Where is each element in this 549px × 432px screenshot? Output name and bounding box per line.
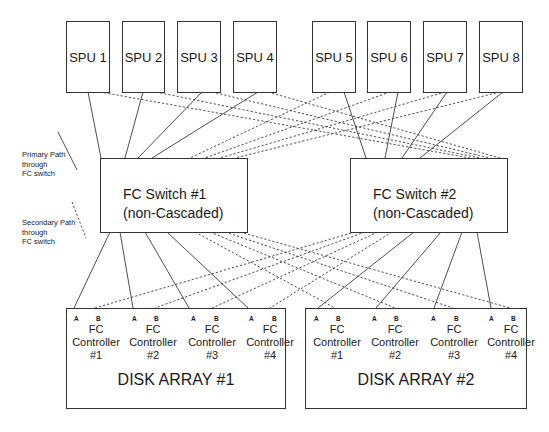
spu-1: SPU 1 — [66, 21, 110, 93]
fc-controller-3: AB FC Controller #3 — [184, 309, 240, 362]
port-a: A — [314, 312, 319, 325]
disk-array-1: AB FC Controller #1 AB FC Controller #2 … — [66, 308, 286, 409]
controller-line3: #1 — [309, 349, 365, 362]
fc-switch-2: FC Switch #2 (non-Cascaded) — [350, 158, 508, 233]
spu-3: SPU 3 — [177, 21, 221, 93]
port-a: A — [431, 312, 436, 325]
legend-primary-path: Primary Path through FC switch — [22, 150, 65, 179]
controller-line2: Controller — [426, 336, 482, 349]
controller-line3: #4 — [483, 349, 539, 362]
legend-secondary-line3: FC switch — [22, 237, 75, 247]
controller-line2: Controller — [125, 336, 181, 349]
spu-label: SPU 6 — [370, 50, 408, 65]
fc-switch-1: FC Switch #1 (non-Cascaded) — [100, 158, 248, 233]
switch-title: FC Switch #2 — [373, 185, 507, 204]
port-a: A — [132, 312, 137, 325]
legend-primary-line2: through — [22, 160, 65, 170]
controller-line3: #3 — [426, 349, 482, 362]
spu-7: SPU 7 — [423, 21, 467, 93]
spu-5: SPU 5 — [312, 21, 356, 93]
port-a: A — [372, 312, 377, 325]
fc-controller-4: AB FC Controller #4 — [242, 309, 298, 362]
controller-line2: Controller — [367, 336, 423, 349]
port-b: B — [96, 312, 101, 325]
fc-controller-3: AB FC Controller #3 — [426, 309, 482, 362]
disk-array-title: DISK ARRAY #2 — [306, 371, 526, 389]
switch-title: FC Switch #1 — [123, 185, 247, 204]
spu-label: SPU 1 — [69, 50, 107, 65]
spu-2: SPU 2 — [122, 21, 165, 93]
spu-label: SPU 3 — [180, 50, 218, 65]
port-a: A — [489, 312, 494, 325]
controller-line2: Controller — [242, 336, 298, 349]
controller-line3: #1 — [68, 349, 124, 362]
legend-primary-line3: FC switch — [22, 169, 65, 179]
legend-primary-line1: Primary Path — [22, 150, 65, 160]
spu-4: SPU 4 — [233, 21, 277, 93]
fc-controller-1: AB FC Controller #1 — [68, 309, 124, 362]
controller-line2: Controller — [309, 336, 365, 349]
fc-controller-4: AB FC Controller #4 — [483, 309, 539, 362]
spu-label: SPU 7 — [426, 50, 464, 65]
spu-8: SPU 8 — [479, 21, 523, 93]
port-a: A — [249, 312, 254, 325]
controller-line3: #2 — [367, 349, 423, 362]
port-b: B — [336, 312, 341, 325]
controller-line2: Controller — [184, 336, 240, 349]
controller-line3: #3 — [184, 349, 240, 362]
controller-line2: Controller — [483, 336, 539, 349]
fc-controller-2: AB FC Controller #2 — [125, 309, 181, 362]
controller-line3: #2 — [125, 349, 181, 362]
port-b: B — [511, 312, 516, 325]
controller-line2: Controller — [68, 336, 124, 349]
port-b: B — [154, 312, 159, 325]
disk-array-2: AB FC Controller #1 AB FC Controller #2 … — [305, 308, 527, 409]
fc-controller-1: AB FC Controller #1 — [309, 309, 365, 362]
spu-6: SPU 6 — [367, 21, 411, 93]
fc-controller-2: AB FC Controller #2 — [367, 309, 423, 362]
controller-line3: #4 — [242, 349, 298, 362]
port-b: B — [394, 312, 399, 325]
port-b: B — [214, 312, 219, 325]
spu-label: SPU 5 — [315, 50, 353, 65]
port-a: A — [191, 312, 196, 325]
legend-secondary-path: Secondary Path through FC switch — [22, 218, 75, 247]
spu-label: SPU 2 — [125, 50, 163, 65]
spu-label: SPU 4 — [236, 50, 274, 65]
disk-array-title: DISK ARRAY #1 — [67, 371, 285, 389]
port-b: B — [454, 312, 459, 325]
legend-secondary-line2: through — [22, 228, 75, 238]
switch-subtitle: (non-Cascaded) — [373, 204, 507, 223]
switch-subtitle: (non-Cascaded) — [123, 204, 247, 223]
port-b: B — [272, 312, 277, 325]
port-a: A — [74, 312, 79, 325]
spu-label: SPU 8 — [482, 50, 520, 65]
legend-secondary-line1: Secondary Path — [22, 218, 75, 228]
